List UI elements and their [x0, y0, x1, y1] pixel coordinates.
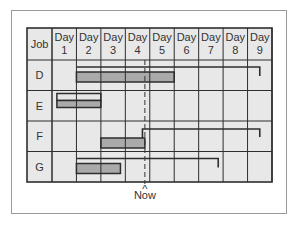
header-day-label: Day: [128, 31, 148, 43]
job-label: F: [36, 130, 43, 142]
actual-bar: [57, 101, 101, 108]
header-day-number: 9: [257, 44, 263, 56]
job-label: E: [36, 100, 43, 112]
header-day-label: Day: [152, 31, 172, 43]
header-day-number: 7: [208, 44, 214, 56]
header-day-label: Day: [54, 31, 74, 43]
header-day-label: Day: [79, 31, 99, 43]
job-label: G: [35, 161, 44, 173]
job-label: D: [36, 69, 44, 81]
header-day-label: Day: [226, 31, 246, 43]
actual-bar: [76, 164, 120, 174]
header-day-number: 1: [61, 44, 67, 56]
header-day-number: 4: [134, 44, 140, 56]
header-day-label: Day: [177, 31, 197, 43]
header-day-label: Day: [103, 31, 123, 43]
actual-bar: [101, 138, 145, 148]
header-day-number: 3: [110, 44, 116, 56]
now-label: Now: [134, 189, 156, 201]
header-day-number: 8: [232, 44, 238, 56]
planned-bar: [57, 94, 101, 101]
header-day-number: 5: [159, 44, 165, 56]
header-day-number: 2: [86, 44, 92, 56]
gantt-chart: JobDay1Day2Day3Day4Day5Day6Day7Day8Day9D…: [0, 0, 297, 232]
header-day-number: 6: [183, 44, 189, 56]
header-day-label: Day: [201, 31, 221, 43]
header-day-label: Day: [250, 31, 270, 43]
header-job-label: Job: [31, 38, 49, 50]
